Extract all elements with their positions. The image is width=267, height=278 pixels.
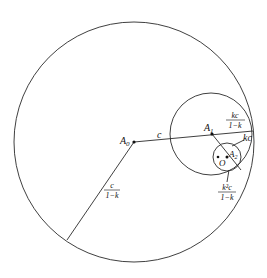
outer-radius xyxy=(67,142,134,240)
fraction-outer-radius: c 1−k xyxy=(104,181,120,200)
fraction-inner-radius: k²c 1−k xyxy=(218,183,236,202)
fraction-middle-radius: kc 1−k xyxy=(226,111,245,130)
label-A0: A0 xyxy=(119,135,130,148)
label-c: c xyxy=(157,129,162,140)
label-A2: A2 xyxy=(228,149,238,160)
nested-circles-diagram: A0 c A1 A2 O kc kc 1−k k²c 1−k c 1−k xyxy=(0,0,267,278)
label-A1: A1 xyxy=(203,122,214,135)
segment-c xyxy=(134,131,253,142)
segment-kc xyxy=(212,134,241,170)
svg-text:kc: kc xyxy=(231,111,239,120)
label-O: O xyxy=(219,158,226,168)
point-A0 xyxy=(132,140,135,143)
svg-text:k²c: k²c xyxy=(222,183,232,192)
svg-text:1−k: 1−k xyxy=(106,191,119,200)
label-kc: kc xyxy=(243,132,252,143)
svg-text:1−k: 1−k xyxy=(221,193,234,202)
svg-text:c: c xyxy=(110,181,114,190)
svg-text:1−k: 1−k xyxy=(229,121,242,130)
